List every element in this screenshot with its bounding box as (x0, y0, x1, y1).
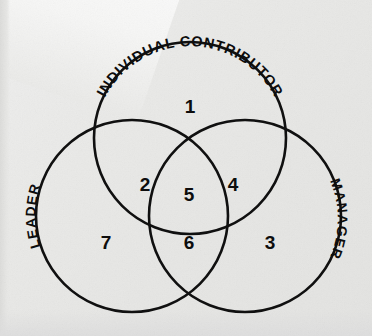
region-number-5: 5 (184, 184, 195, 205)
region-number-7: 7 (101, 232, 112, 253)
region-number-6: 6 (184, 232, 195, 253)
paper-grain-overlay (0, 0, 372, 336)
region-number-2: 2 (140, 174, 151, 195)
region-number-4: 4 (228, 174, 239, 195)
region-number-1: 1 (185, 96, 196, 117)
venn-diagram: INDIVIDUAL CONTRIBUTOR LEADER MANAGER 1 … (0, 0, 372, 336)
venn-diagram-page: INDIVIDUAL CONTRIBUTOR LEADER MANAGER 1 … (0, 0, 372, 336)
region-number-3: 3 (265, 232, 276, 253)
